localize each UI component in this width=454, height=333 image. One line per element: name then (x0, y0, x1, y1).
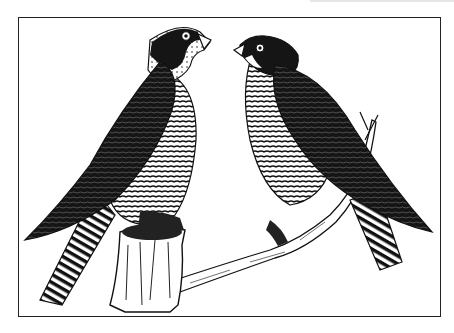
right-falcon (234, 36, 432, 270)
tree-stump (110, 224, 185, 312)
falcons-illustration (0, 0, 454, 333)
